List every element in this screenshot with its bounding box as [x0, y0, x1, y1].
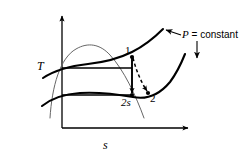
upper-isobar-curve: [43, 29, 163, 78]
temperature-axis-label: T: [37, 60, 44, 72]
isobar-constant-text: = constant: [189, 29, 238, 40]
state-label-2: 2: [150, 93, 156, 104]
pressure-symbol: P: [182, 28, 189, 40]
ts-diagram-figure: T s 1 2 2s P = constant: [0, 0, 252, 155]
ts-diagram-canvas: [0, 0, 252, 155]
entropy-axis-label: s: [103, 139, 108, 151]
isotherm-lines: [62, 68, 132, 95]
state-point-1: [130, 55, 134, 59]
leader-upper-isobar: [166, 30, 181, 35]
isobar-annotation-label: P = constant: [182, 29, 238, 40]
state-label-1: 1: [125, 45, 131, 56]
state-label-2s: 2s: [121, 97, 131, 108]
actual-process-arrow: [133, 58, 147, 91]
axes-group: [62, 16, 188, 128]
